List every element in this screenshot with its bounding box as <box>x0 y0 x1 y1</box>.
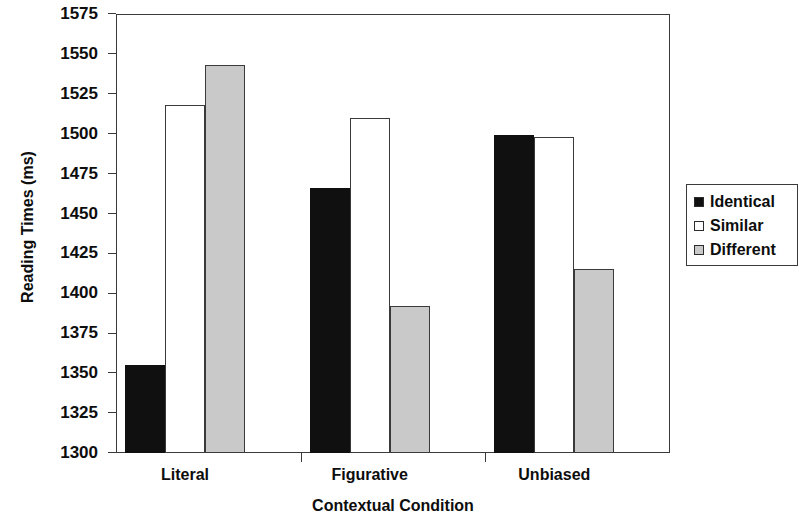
y-axis-tick-label: 1450 <box>28 205 98 222</box>
y-axis-tick <box>108 412 116 413</box>
y-axis-tick <box>108 173 116 174</box>
x-axis-category-label: Figurative <box>290 466 450 484</box>
legend-item-label: Identical <box>710 194 775 210</box>
empty-white-square-icon <box>694 221 704 231</box>
y-axis-tick <box>108 372 116 373</box>
legend-item-label: Different <box>710 242 776 258</box>
bar-unbiased-different <box>574 269 614 453</box>
y-axis-tick <box>108 133 116 134</box>
legend-item-similar: Similar <box>694 214 797 238</box>
bar-unbiased-identical <box>494 135 534 453</box>
legend-item-different: Different <box>694 238 797 262</box>
y-axis-tick-label: 1375 <box>28 324 98 341</box>
bar-chart: Reading Times (ms) 130013251350137514001… <box>0 0 802 526</box>
legend: Identical Similar Different <box>686 184 798 266</box>
bar-figurative-different <box>390 306 430 453</box>
x-axis-title: Contextual Condition <box>116 497 670 515</box>
bar-figurative-similar <box>350 118 390 453</box>
y-axis-tick <box>108 53 116 54</box>
y-axis-tick-label: 1575 <box>28 5 98 22</box>
y-axis-tick-label: 1525 <box>28 85 98 102</box>
y-axis-tick <box>108 13 116 14</box>
y-axis-tick <box>108 452 116 453</box>
y-axis-tick-label: 1425 <box>28 244 98 261</box>
bar-unbiased-similar <box>534 137 574 453</box>
y-axis-tick-label: 1400 <box>28 284 98 301</box>
x-axis-category-label: Literal <box>105 466 265 484</box>
y-axis-tick <box>108 213 116 214</box>
x-axis-tick <box>301 453 302 462</box>
y-axis-tick <box>108 93 116 94</box>
legend-item-label: Similar <box>710 218 763 234</box>
y-axis-tick <box>108 253 116 254</box>
y-axis-tick-label: 1500 <box>28 125 98 142</box>
y-axis-tick <box>108 333 116 334</box>
y-axis-tick-label: 1475 <box>28 165 98 182</box>
filled-gray-square-icon <box>694 245 704 255</box>
bar-literal-similar <box>165 105 205 453</box>
legend-item-identical: Identical <box>694 190 797 214</box>
bar-literal-different <box>205 65 245 453</box>
y-axis-tick-label: 1350 <box>28 364 98 381</box>
x-axis-tick <box>485 453 486 462</box>
y-axis-tick-label: 1325 <box>28 404 98 421</box>
y-axis-tick-label: 1550 <box>28 45 98 62</box>
y-axis-tick <box>108 293 116 294</box>
y-axis-tick-label: 1300 <box>28 444 98 461</box>
x-axis-category-label: Unbiased <box>474 466 634 484</box>
bar-literal-identical <box>125 365 165 453</box>
filled-black-square-icon <box>694 197 704 207</box>
bar-figurative-identical <box>310 188 350 453</box>
